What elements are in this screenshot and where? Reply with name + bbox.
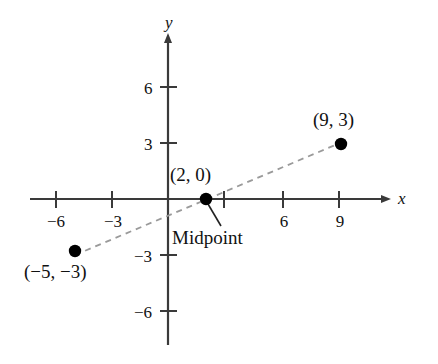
x-tick-label-6: 6 [280, 213, 289, 230]
y-axis-label: y [165, 14, 173, 31]
endpoint-right-label: (9, 3) [313, 110, 354, 129]
midpoint-coords-label: (2, 0) [170, 165, 211, 184]
midpoint-annotation-label: Midpoint [172, 228, 243, 247]
y-tick-label-3: 3 [144, 136, 153, 153]
point-midpoint [200, 193, 212, 205]
y-tick-label-6: 6 [144, 80, 153, 97]
point-endpoint-left [69, 245, 81, 257]
x-tick-label-9: 9 [336, 213, 345, 230]
midpoint-leader-line [208, 204, 221, 226]
x-axis-label: x [398, 190, 406, 207]
endpoint-left-label: (−5, −3) [24, 262, 87, 281]
y-tick-label-neg3: −3 [134, 248, 152, 265]
x-tick-label-neg6: −6 [47, 213, 65, 230]
coordinate-plane [0, 0, 438, 364]
y-tick-label-neg6: −6 [134, 304, 152, 321]
midpoint-figure: y x −6 −3 6 9 6 3 −3 −6 (9, 3) (2, 0) (−… [0, 0, 438, 364]
x-tick-label-neg3: −3 [104, 213, 122, 230]
point-endpoint-right [335, 138, 347, 150]
